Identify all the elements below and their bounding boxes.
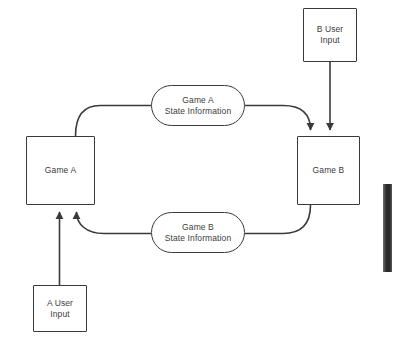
diagram-canvas: Game A Game B A User Input B User Input … <box>0 0 395 344</box>
node-b-user-input[interactable]: B User Input <box>303 8 357 62</box>
node-game-a-label: Game A <box>41 165 80 176</box>
node-game-b-label: Game B <box>309 165 349 176</box>
node-a-user-input[interactable]: A User Input <box>33 285 87 332</box>
connector-game-b-to-state-b <box>245 205 311 234</box>
node-game-b-state-information-label: Game B State Information <box>161 222 235 244</box>
node-game-b[interactable]: Game B <box>297 136 360 205</box>
connector-game-a-to-state-a <box>76 106 152 137</box>
node-a-user-input-label: A User Input <box>43 298 77 320</box>
node-game-a-state-information-label: Game A State Information <box>161 95 235 117</box>
node-game-a[interactable]: Game A <box>26 136 95 205</box>
node-game-a-state-information[interactable]: Game A State Information <box>151 85 245 126</box>
node-game-b-state-information[interactable]: Game B State Information <box>151 212 245 253</box>
connector-state-a-to-game-b <box>245 106 311 131</box>
vertical-scrollbar-thumb[interactable] <box>383 184 392 272</box>
connector-state-b-to-game-a <box>77 212 152 234</box>
node-b-user-input-label: B User Input <box>313 24 348 46</box>
